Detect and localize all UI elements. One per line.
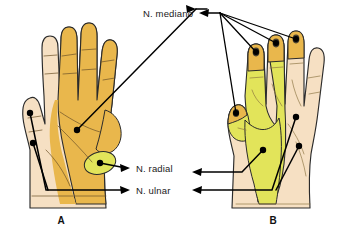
dot-ulnar-upper-a bbox=[27, 110, 33, 116]
dot-ulnar-lower-a bbox=[30, 140, 36, 146]
dot-radial-b bbox=[260, 147, 266, 153]
dot-median-palm-a bbox=[74, 127, 80, 133]
dot-ulnar-upper-b bbox=[293, 114, 299, 120]
nerve-distribution-figure: A bbox=[0, 0, 341, 239]
dot-radial-a bbox=[97, 160, 103, 166]
panel-a-label: A bbox=[57, 215, 64, 226]
label-radial-nerve: N. radial bbox=[136, 163, 173, 174]
panel-b-label: B bbox=[269, 215, 276, 226]
dot-median-middle-b bbox=[273, 40, 279, 46]
label-ulnar-nerve: N. ulnar bbox=[136, 185, 170, 196]
dot-median-ring-b bbox=[293, 36, 299, 42]
dot-ulnar-lower-b bbox=[296, 143, 302, 149]
dot-median-thumb-b bbox=[233, 110, 239, 116]
label-median-nerve: N. mediano bbox=[143, 8, 193, 19]
figure-root: A bbox=[0, 0, 341, 239]
dot-median-index-b bbox=[253, 49, 259, 55]
